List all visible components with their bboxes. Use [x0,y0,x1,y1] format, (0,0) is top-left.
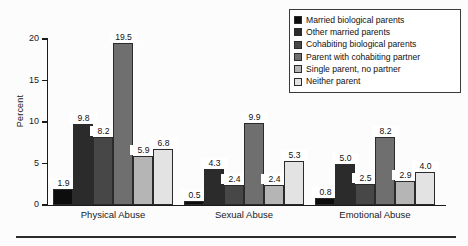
y-tick-label-15: 15 [13,76,39,85]
legend-swatch-icon [294,78,302,86]
y-tick-label-20: 20 [13,34,39,43]
legend-item: Other married parents [294,26,455,38]
bar [264,185,284,205]
bar [244,123,264,205]
bar-value-label: 5.0 [332,153,359,163]
bar [355,184,375,205]
x-axis-line [47,205,446,206]
y-tick-label-0: 0 [13,200,39,209]
legend-item-label: Cohabiting biological parents [306,40,416,49]
y-tick-label-5: 5 [13,159,39,168]
bar [395,181,415,205]
bar [133,156,153,205]
legend-swatch-icon [294,28,302,36]
y-tick-10 [42,121,48,122]
legend-item-label: Other married parents [306,28,390,37]
legend-item: Married biological parents [294,14,455,26]
bar-value-label: 9.9 [241,112,268,122]
bar [284,161,304,205]
bar-value-label: 6.8 [150,138,177,148]
y-tick-15 [42,80,48,81]
bar-chart-figure: Percent 05101520 1.99.88.219.55.96.80.54… [0,0,468,246]
legend-item: Single parent, no partner [294,63,455,75]
footer-divider [16,236,456,238]
legend-item-label: Neither parent [306,77,360,86]
bar [335,164,355,206]
bar [113,43,133,205]
bar [415,172,435,205]
y-tick-label-10: 10 [13,117,39,126]
legend-swatch-icon [294,16,302,24]
bar [224,185,244,205]
bar [315,198,335,205]
y-tick-5 [42,163,48,164]
bar-value-label: 4.3 [201,158,228,168]
bar-value-label: 19.5 [110,32,137,42]
group-label-2: Emotional Abuse [295,209,455,220]
y-tick-0 [42,204,48,205]
legend-item-label: Parent with cohabiting partner [306,53,420,62]
bar-value-label: 4.0 [412,161,439,171]
legend-swatch-icon [294,53,302,61]
bar [93,137,113,205]
legend-item: Neither parent [294,75,455,87]
legend-item-label: Married biological parents [306,16,404,25]
legend-item: Cohabiting biological parents [294,39,455,51]
y-tick-20 [42,38,48,39]
bar [153,149,173,205]
bar [184,201,204,205]
legend-swatch-icon [294,41,302,49]
bar [53,189,73,205]
bar-value-label: 9.8 [70,113,97,123]
bar-value-label: 5.3 [281,150,308,160]
bar-value-label: 8.2 [372,126,399,136]
legend-item-label: Single parent, no partner [306,65,401,74]
legend-item: Parent with cohabiting partner [294,51,455,63]
chart-legend: Married biological parentsOther married … [289,9,461,93]
legend-swatch-icon [294,65,302,73]
